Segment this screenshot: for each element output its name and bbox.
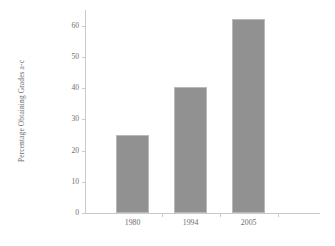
y-tick-mark	[82, 57, 86, 58]
y-tick-mark	[82, 182, 86, 183]
y-tick-label: 0	[75, 209, 79, 217]
x-tick-mark	[278, 213, 279, 217]
y-tick-mark	[82, 151, 86, 152]
y-tick-mark	[82, 119, 86, 120]
bar-2005	[232, 19, 264, 213]
y-tick-label: 30	[71, 116, 79, 124]
plot-area: 0102030405060 198019942005	[85, 10, 320, 213]
y-axis-title: Percentage Obtaining Grades a-c	[17, 31, 31, 191]
y-tick-label: 10	[71, 178, 79, 186]
y-tick-mark	[82, 26, 86, 27]
y-tick-label: 60	[71, 22, 79, 30]
bar-1980	[116, 135, 148, 213]
bar-chart: Percentage Obtaining Grades a-c 01020304…	[0, 0, 335, 246]
y-tick-mark	[82, 88, 86, 89]
x-axis-line	[85, 213, 320, 214]
x-tick-label: 2005	[241, 219, 257, 227]
x-tick-mark	[162, 213, 163, 217]
bar-1994	[174, 87, 206, 213]
y-tick-label: 20	[71, 147, 79, 155]
y-tick-mark	[82, 213, 86, 214]
y-tick-label: 40	[71, 84, 79, 92]
x-tick-label: 1994	[183, 219, 199, 227]
x-tick-label: 1980	[125, 219, 141, 227]
x-tick-mark	[220, 213, 221, 217]
y-tick-label: 50	[71, 53, 79, 61]
